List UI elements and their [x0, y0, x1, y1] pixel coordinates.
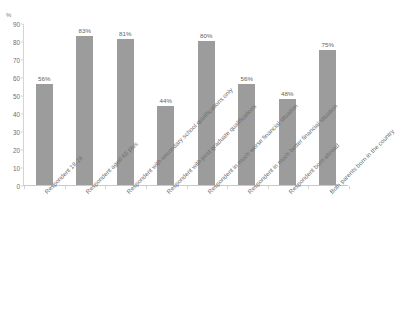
bar-slot: 48% [267, 24, 308, 185]
y-tick-mark [21, 96, 23, 97]
bar-value-label: 75% [322, 41, 334, 48]
y-tick-label: 10 [13, 165, 20, 172]
y-tick-mark [21, 78, 23, 79]
x-axis-labels: Respondent 18-24Respondent aged 65 plusR… [23, 190, 348, 333]
bar-slot: 75% [308, 24, 349, 185]
y-tick-mark [21, 24, 23, 25]
y-tick-label: 40 [13, 111, 20, 118]
bar-slot: 81% [105, 24, 146, 185]
bar-value-label: 81% [119, 30, 131, 37]
y-tick-label: 60 [13, 75, 20, 82]
x-tick-mark [105, 186, 106, 189]
bar-value-label: 80% [200, 32, 212, 39]
bar: 56% [238, 84, 255, 185]
bar-value-label: 56% [241, 75, 253, 82]
x-tick-mark [349, 186, 350, 189]
x-tick-mark [24, 186, 25, 189]
y-tick-label: 70 [13, 57, 20, 64]
y-tick-label: 0 [16, 183, 20, 190]
x-tick-mark [146, 186, 147, 189]
bar-value-label: 56% [38, 75, 50, 82]
y-tick-mark [21, 168, 23, 169]
y-tick-mark [21, 150, 23, 151]
x-tick-mark [268, 186, 269, 189]
bar-slot: 44% [146, 24, 187, 185]
y-tick-mark [21, 186, 23, 187]
y-tick-label: 90 [13, 21, 20, 28]
bar-value-label: 48% [281, 90, 293, 97]
x-tick-mark [65, 186, 66, 189]
y-axis-title: % [6, 12, 12, 18]
x-tick-mark [187, 186, 188, 189]
bar-value-label: 83% [79, 27, 91, 34]
x-tick-mark [308, 186, 309, 189]
y-tick-label: 50 [13, 93, 20, 100]
y-tick-mark [21, 114, 23, 115]
bar-slot: 56% [227, 24, 268, 185]
y-tick-mark [21, 42, 23, 43]
bar: 56% [36, 84, 53, 185]
y-tick-mark [21, 60, 23, 61]
y-tick-label: 30 [13, 129, 20, 136]
bar-value-label: 44% [160, 97, 172, 104]
x-tick-mark [227, 186, 228, 189]
y-tick-label: 80 [13, 39, 20, 46]
bar-slot: 80% [186, 24, 227, 185]
bar-slot: 56% [24, 24, 65, 185]
y-tick-mark [21, 132, 23, 133]
y-tick-label: 20 [13, 147, 20, 154]
